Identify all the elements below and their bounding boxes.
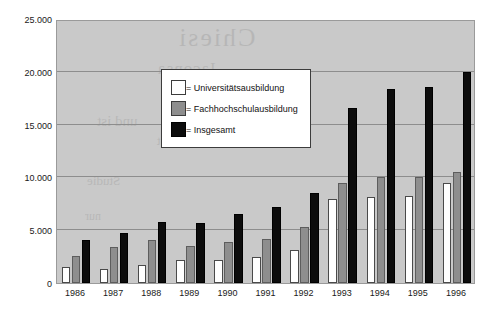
bar-ins-1995 xyxy=(425,87,433,283)
bar-fh-1988 xyxy=(148,240,156,283)
legend-swatch-ins xyxy=(171,122,186,137)
bar-uni-1989 xyxy=(176,260,184,283)
bar-ins-1993 xyxy=(348,108,356,283)
bar-uni-1993 xyxy=(328,199,336,283)
bar-group-1988 xyxy=(138,21,166,283)
bar-ins-1991 xyxy=(272,207,280,283)
bar-ins-1994 xyxy=(387,89,395,283)
bar-ins-1989 xyxy=(196,223,204,283)
x-tick-label-1990: 1990 xyxy=(217,288,237,298)
bar-fh-1989 xyxy=(186,246,194,283)
legend-label: = Universitätsausbildung xyxy=(186,83,284,93)
bar-group-1991 xyxy=(252,21,280,283)
bar-fh-1990 xyxy=(224,242,232,283)
bar-fh-1991 xyxy=(262,239,270,283)
x-tick-label-1996: 1996 xyxy=(446,288,466,298)
bar-uni-1987 xyxy=(100,269,108,283)
y-tick-label: 20.000 xyxy=(24,68,52,78)
bar-group-1995 xyxy=(405,21,433,283)
bar-group-1990 xyxy=(214,21,242,283)
bar-ins-1987 xyxy=(120,233,128,283)
bar-fh-1992 xyxy=(300,227,308,283)
bar-uni-1995 xyxy=(405,196,413,283)
bar-fh-1986 xyxy=(72,256,80,283)
bar-uni-1992 xyxy=(290,250,298,283)
chart-legend: = Universitätsausbildung= Fachhochschula… xyxy=(161,69,311,148)
x-tick-label-1989: 1989 xyxy=(179,288,199,298)
legend-swatch-fh xyxy=(171,101,186,116)
bars-layer xyxy=(57,21,474,283)
legend-swatch-uni xyxy=(171,80,186,95)
bar-uni-1990 xyxy=(214,260,222,283)
bar-fh-1995 xyxy=(415,177,423,283)
legend-item-fh: = Fachhochschulausbildung xyxy=(171,98,298,119)
bar-uni-1988 xyxy=(138,265,146,283)
legend-item-ins: = Insgesamt xyxy=(171,119,298,140)
y-tick-label: 15.000 xyxy=(24,121,52,131)
bar-group-1986 xyxy=(62,21,90,283)
bar-ins-1990 xyxy=(234,214,242,283)
bar-ins-1986 xyxy=(82,240,90,283)
bar-group-1992 xyxy=(290,21,318,283)
y-tick-label: 0 xyxy=(47,279,52,289)
bar-group-1993 xyxy=(328,21,356,283)
bar-fh-1996 xyxy=(453,172,461,283)
x-tick-label-1988: 1988 xyxy=(141,288,161,298)
x-tick-label-1993: 1993 xyxy=(332,288,352,298)
bar-fh-1993 xyxy=(338,183,346,283)
bar-chart: 05.00010.00015.00020.00025.000 ChiesiJac… xyxy=(0,0,484,321)
bar-group-1987 xyxy=(100,21,128,283)
x-tick-label-1987: 1987 xyxy=(103,288,123,298)
bar-fh-1994 xyxy=(377,177,385,283)
y-tick-label: 5.000 xyxy=(29,226,52,236)
x-tick-label-1986: 1986 xyxy=(65,288,85,298)
bar-uni-1986 xyxy=(62,267,70,283)
bar-ins-1996 xyxy=(463,72,471,283)
x-tick-label-1991: 1991 xyxy=(255,288,275,298)
bar-group-1996 xyxy=(443,21,471,283)
bar-ins-1992 xyxy=(310,193,318,283)
bar-uni-1991 xyxy=(252,257,260,283)
bar-group-1994 xyxy=(367,21,395,283)
bar-ins-1988 xyxy=(158,222,166,283)
bar-group-1989 xyxy=(176,21,204,283)
x-tick-label-1995: 1995 xyxy=(408,288,428,298)
x-tick-label-1992: 1992 xyxy=(294,288,314,298)
y-tick-label: 25.000 xyxy=(24,15,52,25)
legend-label: = Insgesamt xyxy=(186,125,235,135)
x-tick-label-1994: 1994 xyxy=(370,288,390,298)
bar-uni-1996 xyxy=(443,183,451,283)
bar-uni-1994 xyxy=(367,197,375,283)
bar-fh-1987 xyxy=(110,247,118,283)
legend-label: = Fachhochschulausbildung xyxy=(186,104,298,114)
y-axis-labels: 05.00010.00015.00020.00025.000 xyxy=(0,20,52,284)
y-tick-label: 10.000 xyxy=(24,173,52,183)
x-axis-labels: 1986198719881989199019911992199319941995… xyxy=(56,288,475,304)
plot-area: ChiesiJaconsaund istkommtStudienur = Uni… xyxy=(56,20,475,284)
legend-item-uni: = Universitätsausbildung xyxy=(171,77,298,98)
